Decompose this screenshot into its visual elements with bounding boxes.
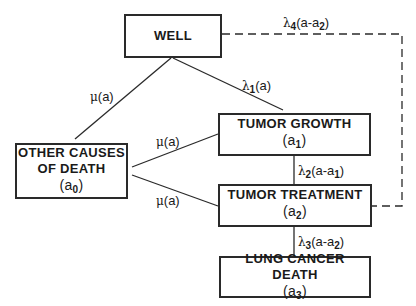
label-treatment-to-death: λ3(a-a2) <box>298 234 344 251</box>
node-tumor-growth-age: (a1) <box>283 132 307 153</box>
node-tumor-growth: TUMOR GROWTH (a1) <box>218 113 371 156</box>
node-lung-cancer-death-age: (a3) <box>283 283 307 304</box>
node-other-causes: OTHER CAUSES OF DEATH (a0) <box>15 143 128 199</box>
label-well-to-other: μ(a) <box>90 89 114 104</box>
label-dashed-transition: λ4(a-a2) <box>283 15 329 32</box>
node-tumor-treatment: TUMOR TREATMENT (a2) <box>218 184 372 227</box>
label-treatment-to-other: μ(a) <box>156 193 180 208</box>
node-well: WELL <box>124 14 222 58</box>
node-tumor-growth-label: TUMOR GROWTH <box>237 116 351 132</box>
label-well-to-growth: λ1(a) <box>242 78 271 95</box>
node-well-label: WELL <box>154 28 192 44</box>
label-growth-to-other: μ(a) <box>156 134 180 149</box>
node-tumor-treatment-age: (a2) <box>283 203 307 224</box>
node-other-causes-line2: OF DEATH <box>38 161 106 177</box>
node-tumor-treatment-label: TUMOR TREATMENT <box>228 187 363 203</box>
node-lung-cancer-death-label: LUNG CANCER DEATH <box>221 251 369 283</box>
node-lung-cancer-death: LUNG CANCER DEATH (a3) <box>219 256 371 298</box>
node-other-causes-age: (a0) <box>60 177 84 198</box>
node-other-causes-line1: OTHER CAUSES <box>18 145 125 161</box>
label-growth-to-treatment: λ2(a-a1) <box>298 163 344 180</box>
